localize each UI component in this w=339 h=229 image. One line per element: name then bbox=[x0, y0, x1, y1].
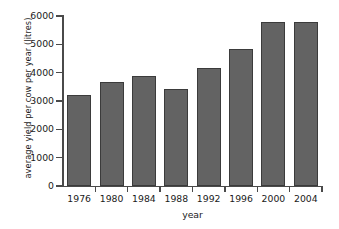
y-tick-mark bbox=[56, 15, 63, 16]
y-tick-label: 4000 bbox=[12, 68, 54, 77]
x-tick-label: 1988 bbox=[159, 194, 193, 203]
y-tick-mark bbox=[56, 185, 63, 186]
bar bbox=[229, 49, 253, 186]
y-tick-label: 1000 bbox=[12, 153, 54, 162]
x-tick-label: 2000 bbox=[256, 194, 290, 203]
y-tick-mark bbox=[56, 72, 63, 73]
bar bbox=[100, 82, 124, 186]
x-tick-mark bbox=[127, 186, 128, 192]
x-tick-mark bbox=[192, 186, 193, 192]
x-tick-mark bbox=[224, 186, 225, 192]
x-tick-label: 1992 bbox=[192, 194, 226, 203]
x-axis-title: year bbox=[63, 209, 322, 220]
bar bbox=[67, 95, 91, 186]
x-tick-label: 1984 bbox=[127, 194, 161, 203]
y-tick-label: 5000 bbox=[12, 39, 54, 48]
x-tick-label: 1976 bbox=[62, 194, 96, 203]
x-tick-mark bbox=[321, 186, 322, 192]
x-tick-label: 1980 bbox=[95, 194, 129, 203]
y-tick-mark bbox=[56, 44, 63, 45]
x-tick-label: 1996 bbox=[224, 194, 258, 203]
y-tick-mark bbox=[56, 100, 63, 101]
bar bbox=[164, 89, 188, 186]
x-tick-mark bbox=[289, 186, 290, 192]
x-tick-label: 2004 bbox=[289, 194, 323, 203]
bar bbox=[197, 68, 221, 186]
x-tick-mark bbox=[159, 186, 160, 192]
y-tick-label: 3000 bbox=[12, 96, 54, 105]
y-tick-label: 0 bbox=[12, 181, 54, 190]
y-tick-label: 2000 bbox=[12, 124, 54, 133]
y-tick-mark bbox=[56, 129, 63, 130]
x-tick-mark bbox=[257, 186, 258, 192]
bar-chart: average yield per cow per year (litres) … bbox=[0, 0, 339, 229]
y-tick-label: 6000 bbox=[12, 11, 54, 20]
plot-area bbox=[63, 16, 322, 186]
bar bbox=[261, 22, 285, 186]
x-tick-mark bbox=[95, 186, 96, 192]
y-tick-mark bbox=[56, 157, 63, 158]
bar bbox=[132, 76, 156, 186]
bar bbox=[294, 22, 318, 186]
